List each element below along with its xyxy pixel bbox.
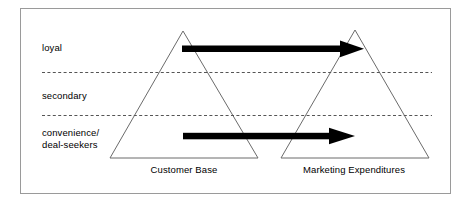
segment-label-loyal: loyal [42,42,62,54]
caption-marketing-expenditures: Marketing Expenditures [272,164,436,175]
convenience-arrow [183,128,355,145]
segment-label-secondary: secondary [42,90,87,102]
caption-customer-base: Customer Base [110,164,258,175]
loyal-arrow [182,41,364,58]
segment-label-convenience: convenience/ deal-seekers [42,127,99,150]
diagram-figure: loyal secondary convenience/ deal-seeker… [0,0,471,204]
